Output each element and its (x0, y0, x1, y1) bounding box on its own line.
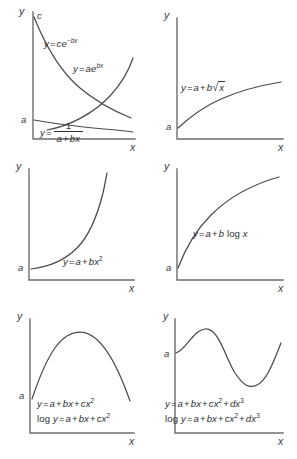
x-axis-label: x (278, 142, 283, 153)
y-tick-a: a (19, 391, 24, 401)
equation-cubic-full: y=a+bx+cx2+dx3 (165, 398, 244, 409)
y-axis-label: y (17, 311, 22, 322)
equation-log-cubic: log y=a+bx+cx2+dx3 (165, 413, 260, 424)
panel-quadratic-growth: y x a y=a+bx2 (0, 155, 149, 305)
panel-logarithmic: y x a y=a+b log x (149, 155, 297, 305)
x-axis-label: x (278, 436, 283, 447)
panel-square-root: y x a y=a+bx (149, 0, 297, 155)
x-axis-label: x (130, 142, 135, 153)
x-axis-label: x (129, 436, 134, 447)
axes (177, 169, 283, 280)
x-axis-label: x (278, 283, 283, 294)
y-tick-a: a (164, 349, 169, 359)
equation-exp-growth: y=aebx (73, 63, 103, 74)
equation-logarithmic: y=a+b log x (193, 228, 248, 239)
panel-parabola: y x a y=a+bx+cx2 log y=a+bx+cx2 (0, 305, 149, 459)
equation-log-quadratic: log y=a+bx+cx2 (37, 413, 110, 424)
x-axis-label: x (129, 283, 134, 294)
curve-plate-grid: y x c a y=ce−bx y=aebx y=1a+bx y x a y=a… (0, 0, 297, 459)
curve-downward-parabola (32, 332, 130, 401)
equation-exp-decay: y=ce−bx (44, 38, 78, 49)
y-axis-label: y (164, 161, 169, 172)
y-tick-c: c (37, 11, 42, 21)
panel-3-plot (0, 155, 149, 305)
equation-quadratic: y=a+bx2 (63, 256, 103, 267)
curve-logarithmic (178, 177, 279, 268)
y-axis-label: y (16, 161, 21, 172)
axes (33, 12, 135, 139)
panel-5-plot (0, 305, 149, 459)
y-tick-a: a (21, 115, 26, 125)
y-axis-label: y (164, 10, 169, 21)
curve-cubic-wave (176, 329, 281, 387)
equation-square-root: y=a+bx (181, 81, 225, 93)
equation-quadratic-full: y=a+bx+cx2 (37, 398, 94, 409)
y-tick-a: a (166, 263, 171, 273)
y-axis-label: y (163, 311, 168, 322)
panel-6-plot (149, 305, 297, 459)
equation-hyperbolic: y=1a+bx (40, 121, 84, 145)
panel-2-plot (149, 0, 297, 155)
y-tick-a: a (18, 263, 23, 273)
y-axis-label: y (19, 6, 24, 17)
panel-cubic: y x a y=a+bx+cx2+dx3 log y=a+bx+cx2+dx3 (149, 305, 297, 459)
curve-quadratic-growth (31, 173, 107, 269)
y-tick-a: a (166, 122, 171, 132)
panel-exponentials: y x c a y=ce−bx y=aebx y=1a+bx (0, 0, 149, 155)
axes (177, 18, 283, 139)
